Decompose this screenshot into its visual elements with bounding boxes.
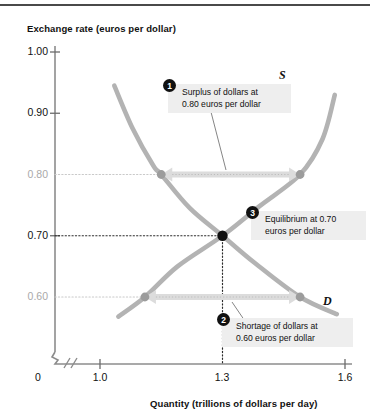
y-tick-label-1.00: 1.00 xyxy=(14,45,48,57)
x-tick-label-1.3: 1.3 xyxy=(207,371,237,383)
callout-badge-1: 1 xyxy=(163,79,176,92)
demand-curve-label: D xyxy=(323,294,332,309)
leader-callout-1 xyxy=(211,112,226,170)
equilibrium-point-marker xyxy=(217,231,227,241)
callout-badge-2: 2 xyxy=(217,313,230,326)
plot-area xyxy=(0,0,370,419)
callout-box-3: Equilibrium at 0.70 euros per dollar xyxy=(251,211,366,240)
point-marker-2 xyxy=(141,293,150,302)
callout-badge-3: 3 xyxy=(246,206,259,219)
y-tick-label-0.70: 0.70 xyxy=(14,229,48,241)
x-axis-break-marks xyxy=(64,358,77,368)
x-tick-label-1.0: 1.0 xyxy=(85,371,115,383)
y-tick-label-0.60: 0.60 xyxy=(14,290,48,302)
y-tick-label-0.80: 0.80 xyxy=(14,168,48,180)
point-marker-0 xyxy=(157,170,166,179)
axis-break-corner xyxy=(52,352,63,364)
x-tick-label-0: 0 xyxy=(23,371,53,383)
figure-canvas: Exchange rate (euros per dollar) Quantit… xyxy=(0,0,370,419)
point-marker-1 xyxy=(296,170,305,179)
supply-curve-label: S xyxy=(279,68,286,83)
callout-box-2: Shortage of dollars at 0.60 euros per do… xyxy=(222,318,353,347)
x-tick-label-1.6: 1.6 xyxy=(330,371,360,383)
curve-demand xyxy=(114,86,337,314)
point-marker-3 xyxy=(296,293,305,302)
curve-supply xyxy=(118,95,334,317)
y-tick-label-0.90: 0.90 xyxy=(14,106,48,118)
callout-box-1: Surplus of dollars at 0.80 euros per dol… xyxy=(168,84,291,113)
